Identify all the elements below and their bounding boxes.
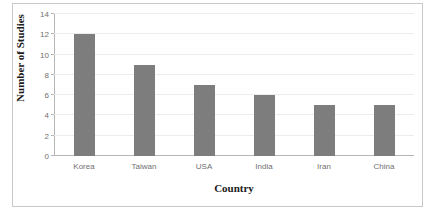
bar-slot bbox=[294, 14, 354, 156]
x-tick-label-taiwan: Taiwan bbox=[114, 162, 174, 171]
x-axis-title: Country bbox=[54, 182, 414, 194]
x-tick-label-usa: USA bbox=[174, 162, 234, 171]
y-tick-label: 6 bbox=[45, 91, 49, 100]
x-tick-label-china: China bbox=[354, 162, 414, 171]
bar-slot bbox=[114, 14, 174, 156]
bar-china[interactable] bbox=[374, 105, 395, 156]
plot-area: 02468101214 bbox=[54, 14, 414, 156]
bar-india[interactable] bbox=[254, 95, 275, 156]
bar-series bbox=[54, 14, 414, 156]
bar-slot bbox=[354, 14, 414, 156]
y-tick-label: 8 bbox=[45, 70, 49, 79]
bar-slot bbox=[234, 14, 294, 156]
bar-slot bbox=[54, 14, 114, 156]
y-tick-label: 2 bbox=[45, 131, 49, 140]
y-tick-label: 14 bbox=[40, 10, 49, 19]
bar-usa[interactable] bbox=[194, 85, 215, 156]
y-tick-label: 12 bbox=[40, 30, 49, 39]
y-axis-title: Number of Studies bbox=[14, 0, 26, 118]
bar-slot bbox=[174, 14, 234, 156]
y-tick-label: 0 bbox=[45, 152, 49, 161]
bar-taiwan[interactable] bbox=[134, 65, 155, 156]
y-tick-label: 4 bbox=[45, 111, 49, 120]
x-axis-tick-labels: KoreaTaiwanUSAIndiaIranChina bbox=[54, 162, 414, 171]
x-tick-label-iran: Iran bbox=[294, 162, 354, 171]
x-tick-label-india: India bbox=[234, 162, 294, 171]
bar-chart-figure: Number of Studies 02468101214 KoreaTaiwa… bbox=[0, 0, 435, 223]
bar-korea[interactable] bbox=[74, 34, 95, 156]
bar-iran[interactable] bbox=[314, 105, 335, 156]
x-tick-label-korea: Korea bbox=[54, 162, 114, 171]
y-tick-label: 10 bbox=[40, 50, 49, 59]
